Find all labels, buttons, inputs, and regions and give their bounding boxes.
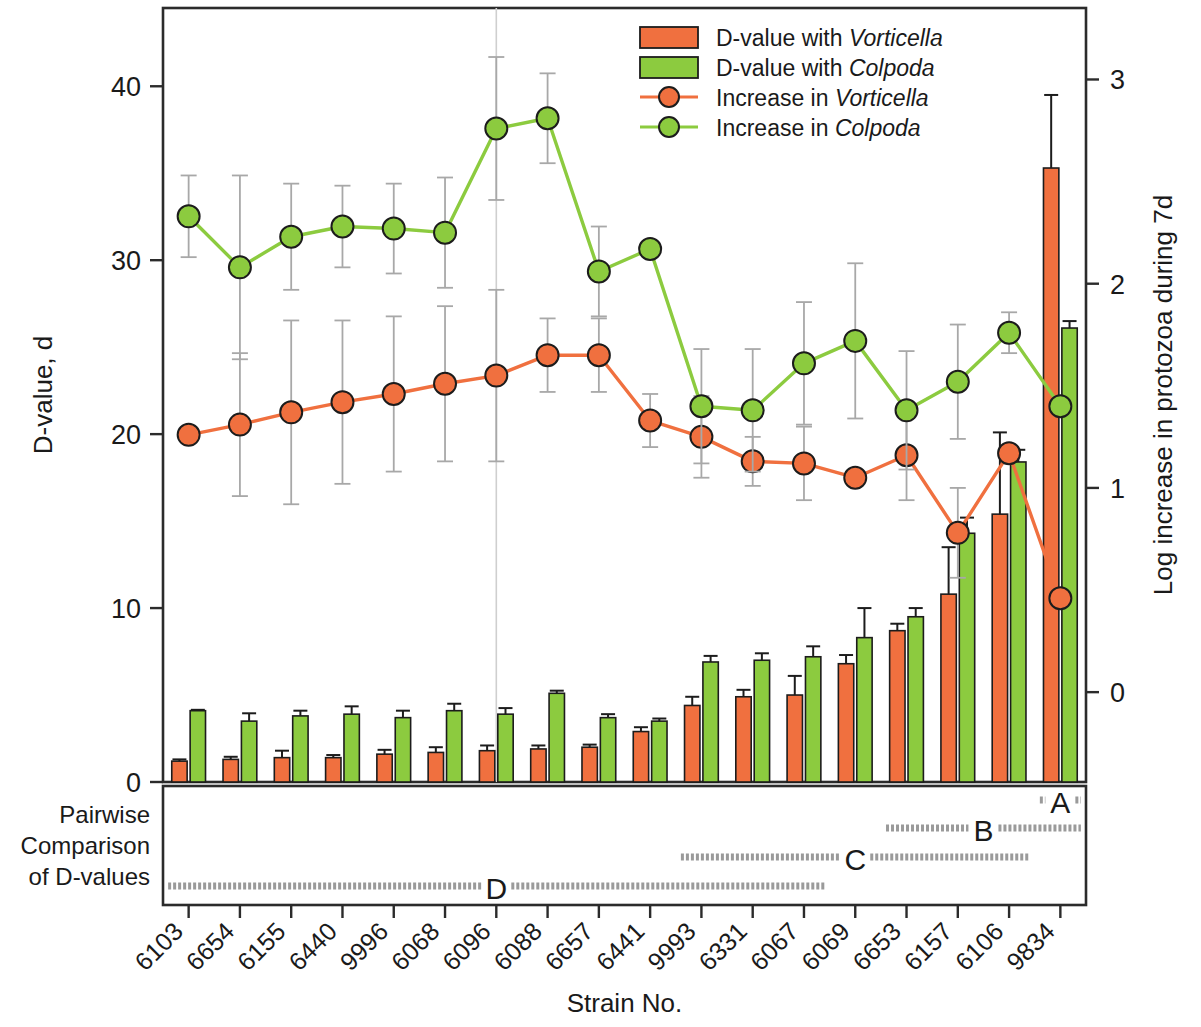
series-marker-colpoda [896,399,918,421]
series-marker-vorticella [178,424,200,446]
bar-colpoda [652,721,667,782]
x-axis-tick-label: 6068 [385,917,444,976]
series-line-colpoda [189,118,1061,410]
series-marker-vorticella [383,383,405,405]
series-marker-vorticella [947,522,969,544]
legend-label-prefix: Increase in [716,115,835,141]
x-axis-tick-label: 6096 [437,917,496,976]
legend-increase-vorticella: Increase in Vorticella [716,85,929,111]
bar-colpoda [190,711,205,782]
bar-colpoda [344,714,359,782]
series-marker-colpoda [331,216,353,238]
bar-vorticella [479,751,494,782]
series-marker-colpoda [383,218,405,240]
legend-swatch-marker [659,117,679,137]
series-marker-colpoda [178,205,200,227]
series-marker-colpoda [1049,395,1071,417]
series-marker-colpoda [844,330,866,352]
series-marker-vorticella [434,373,456,395]
series-marker-vorticella [588,344,610,366]
right-axis-tick-label: 3 [1110,65,1125,95]
right-axis-tick-label: 0 [1110,678,1125,708]
x-axis-tick-label: 6157 [898,917,957,976]
left-axis-tick-label: 10 [111,594,141,624]
right-axis-title: Log increase in protozoa during 7d [1148,195,1178,595]
legend-d-value-vorticella: D-value with Vorticella [716,25,943,51]
bar-vorticella [274,758,289,782]
x-axis-tick-label: 6067 [744,917,803,976]
x-axis-tick-label: 9993 [642,917,701,976]
x-axis-tick-label: 6103 [129,917,188,976]
series-marker-vorticella [793,452,815,474]
bar-colpoda [1011,462,1026,782]
left-axis-tick-label: 0 [126,768,141,798]
series-marker-vorticella [229,414,251,436]
series-marker-colpoda [280,226,302,248]
legend-label-species: Colpoda [849,55,935,81]
legend-label-prefix: Increase in [716,85,835,111]
pairwise-label-line: Comparison [21,832,150,859]
bar-colpoda [447,711,462,782]
x-axis-tick-label: 6088 [488,917,547,976]
x-axis-tick-label: 6654 [180,917,239,976]
series-marker-vorticella [639,410,661,432]
bar-vorticella [326,758,341,782]
left-axis-tick-label: 30 [111,246,141,276]
left-axis-title: D-value, d [28,336,58,455]
series-marker-colpoda [998,322,1020,344]
legend-d-value-colpoda: D-value with Colpoda [716,55,935,81]
legend-label-species: Vorticella [835,85,929,111]
bar-vorticella [736,697,751,782]
series-marker-vorticella [331,391,353,413]
series-marker-colpoda [742,399,764,421]
left-axis-tick-label: 20 [111,420,141,450]
bar-colpoda [395,718,410,782]
bar-vorticella [531,749,546,782]
series-marker-vorticella [1049,587,1071,609]
right-axis-tick-label: 1 [1110,474,1125,504]
bar-colpoda [293,716,308,782]
series-marker-vorticella [537,344,559,366]
legend-swatch-marker [659,87,679,107]
series-marker-colpoda [947,371,969,393]
x-axis-tick-label: 6441 [591,917,650,976]
bar-vorticella [838,664,853,782]
bar-vorticella [633,732,648,782]
bar-colpoda [600,718,615,782]
bar-vorticella [787,695,802,782]
series-marker-colpoda [690,395,712,417]
series-marker-colpoda [434,222,456,244]
bar-vorticella [223,759,238,782]
bar-colpoda [857,638,872,782]
series-marker-colpoda [537,107,559,129]
bar-vorticella [992,514,1007,782]
series-marker-vorticella [844,467,866,489]
series-marker-colpoda [229,256,251,278]
x-axis-tick-label: 9996 [334,917,393,976]
x-axis-tick-label: 6331 [693,917,752,976]
right-axis-tick-label: 2 [1110,270,1125,300]
bar-colpoda [549,693,564,782]
series-marker-vorticella [998,442,1020,464]
pairwise-group-label: D [485,872,507,905]
x-axis-title: Strain No. [567,988,683,1018]
pairwise-label-line: Pairwise [59,801,150,828]
bar-colpoda [908,617,923,782]
figure-root: 010203040D-value, d0123Log increase in p… [0,0,1201,1027]
bar-vorticella [172,761,187,782]
series-marker-colpoda [588,260,610,282]
pairwise-group-label: A [1050,786,1070,819]
bar-vorticella [685,705,700,782]
legend-swatch-bar [640,27,698,48]
pairwise-group-label: B [973,814,993,847]
bar-colpoda [959,533,974,782]
chart-svg: 010203040D-value, d0123Log increase in p… [0,0,1201,1027]
x-axis-tick-label: 6653 [847,917,906,976]
x-axis-tick-label: 6106 [949,917,1008,976]
series-marker-colpoda [793,352,815,374]
legend-increase-colpoda: Increase in Colpoda [716,115,921,141]
bar-colpoda [805,657,820,782]
bar-vorticella [428,752,443,782]
x-axis-tick-label: 6440 [283,917,342,976]
legend-label-species: Vorticella [849,25,943,51]
